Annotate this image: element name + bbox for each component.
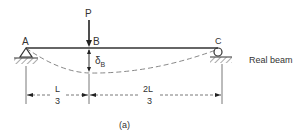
- label-a: A: [22, 36, 29, 47]
- label-delta: δB: [95, 55, 106, 68]
- dim-l-denominator: 3: [55, 96, 60, 106]
- label-b: B: [93, 36, 100, 47]
- dimension-2l-over-3: [90, 93, 221, 97]
- dim-2l-numerator: 2L: [143, 84, 153, 94]
- label-p: P: [85, 8, 92, 19]
- deflected-shape: [26, 48, 216, 73]
- figure-caption: (a): [119, 120, 130, 130]
- deflection-arrow: [87, 49, 91, 72]
- roller-support-c: [210, 48, 232, 63]
- real-beam-label: Real beam: [249, 55, 293, 65]
- load-arrow-p: [86, 20, 92, 47]
- dim-2l-denominator: 3: [147, 96, 152, 106]
- dim-l-numerator: L: [55, 84, 60, 94]
- label-c: C: [215, 36, 222, 46]
- pin-support-a: [14, 48, 38, 64]
- beam-diagram: P A B C δB L 3 2L 3 Real beam (a): [0, 0, 306, 132]
